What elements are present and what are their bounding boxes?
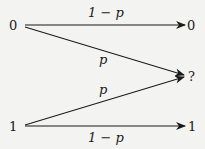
- output-0-label: 0: [187, 18, 195, 33]
- input-1-label: 1: [9, 119, 17, 134]
- input-0-label: 0: [9, 18, 17, 33]
- bec-diagram: 0 1 0 ? 1 1 − p p p 1 − p: [0, 0, 205, 149]
- edge-label-bottom: 1 − p: [88, 130, 124, 145]
- edge-label-upper-diag: p: [99, 52, 108, 67]
- edge-0-to-erasure: [25, 27, 184, 75]
- output-1-label: 1: [188, 119, 196, 134]
- edge-label-lower-diag: p: [99, 82, 108, 97]
- output-erasure-label: ?: [188, 69, 195, 84]
- edge-label-top: 1 − p: [88, 5, 124, 20]
